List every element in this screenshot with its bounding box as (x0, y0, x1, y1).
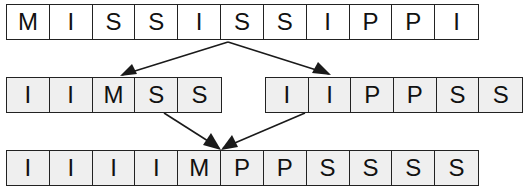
array-cell: I (135, 151, 178, 185)
sorted-left-half: I I M S S (6, 77, 222, 113)
array-cell: I (7, 78, 50, 112)
merged-array: I I I I M P P S S S S (6, 150, 479, 186)
merge-arrow-right (221, 113, 305, 150)
array-cell: I (50, 78, 93, 112)
array-cell: M (7, 5, 50, 39)
array-cell: S (479, 78, 522, 112)
array-cell: M (178, 151, 221, 185)
array-cell: S (307, 151, 350, 185)
merge-arrow-left (164, 113, 221, 150)
array-cell: P (392, 5, 435, 39)
array-cell: S (135, 78, 178, 112)
array-cell: P (264, 151, 307, 185)
array-cell: M (93, 78, 136, 112)
array-cell: I (50, 5, 93, 39)
array-cell: I (178, 5, 221, 39)
sorted-right-half: I I P P S S (265, 77, 523, 113)
array-cell: S (135, 5, 178, 39)
array-cell: P (394, 78, 437, 112)
array-cell: S (435, 151, 478, 185)
array-cell: I (309, 78, 352, 112)
original-array: M I S S I S S I P P I (6, 4, 479, 40)
array-cell: S (221, 5, 264, 39)
array-cell: I (266, 78, 309, 112)
array-cell: I (7, 151, 50, 185)
array-cell: S (264, 5, 307, 39)
array-cell: S (178, 78, 221, 112)
array-cell: S (350, 151, 393, 185)
split-arrow-right (228, 42, 331, 75)
array-cell: S (437, 78, 480, 112)
array-cell: S (93, 5, 136, 39)
array-cell: I (50, 151, 93, 185)
array-cell: I (435, 5, 478, 39)
array-cell: P (351, 78, 394, 112)
array-cell: S (392, 151, 435, 185)
array-cell: P (350, 5, 393, 39)
split-arrow-left (120, 42, 228, 76)
array-cell: I (307, 5, 350, 39)
array-cell: P (221, 151, 264, 185)
array-cell: I (93, 151, 136, 185)
